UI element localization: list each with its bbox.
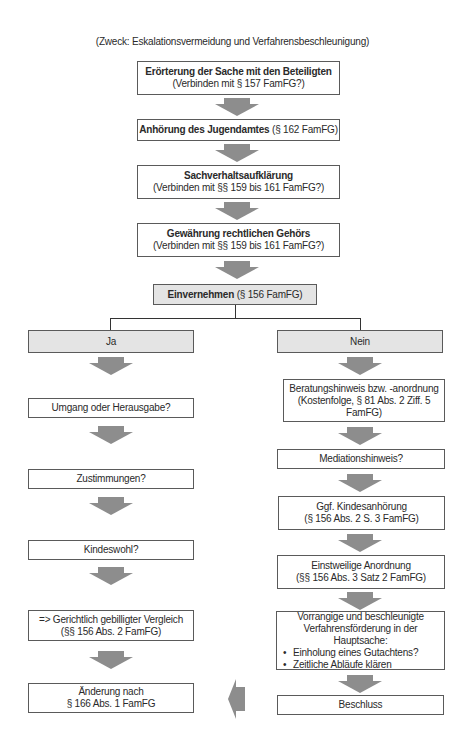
no-step-verfahrensfoerderung: Vorrangige und beschleunigte Verfahrensf… bbox=[276, 611, 445, 670]
down-arrow-icon bbox=[215, 261, 259, 279]
step-text: (§ 156 Abs. 2 S. 3 FamFG) bbox=[304, 513, 419, 525]
connector-line bbox=[360, 318, 361, 330]
no-step-einstweilige-anordnung: Einstweilige Anordnung (§§ 156 Abs. 3 Sa… bbox=[277, 555, 445, 589]
step-text: Umgang oder Herausgabe? bbox=[52, 402, 171, 414]
down-arrow-icon bbox=[215, 202, 259, 220]
step-text: (§§ 156 Abs. 3 Satz 2 FamFG) bbox=[296, 572, 426, 584]
down-arrow-icon bbox=[89, 497, 133, 515]
down-arrow-icon bbox=[89, 357, 133, 375]
bullet-list: Einholung eines Gutachtens? Zeitliche Ab… bbox=[283, 647, 418, 671]
down-arrow-icon bbox=[89, 567, 133, 585]
bullet-item: Zeitliche Abläufe klären bbox=[283, 659, 418, 671]
down-arrow-icon bbox=[89, 651, 133, 669]
connector-line bbox=[110, 318, 361, 319]
yes-step-zustimmungen: Zustimmungen? bbox=[28, 469, 194, 489]
no-step-kindesanhoerung: Ggf. Kindesanhörung (§ 156 Abs. 2 S. 3 F… bbox=[278, 496, 445, 530]
step-text: Mediationshinweis? bbox=[319, 453, 403, 465]
yes-step-aenderung: Änderung nach § 166 Abs. 1 FamFG bbox=[28, 683, 194, 713]
step-text: Zustimmungen? bbox=[76, 473, 145, 485]
step-note: (§ 162 FamFG) bbox=[272, 124, 338, 136]
step-text: Verfahrensförderung in der Hauptsache: bbox=[277, 623, 444, 647]
step-note: (Verbinden mit §§ 159 bis 161 FamFG?) bbox=[153, 182, 324, 194]
decision-einvernehmen: Einvernehmen (§ 156 FamFG) bbox=[153, 284, 317, 305]
step-eroerterung: Erörterung der Sache mit den Beteiligten… bbox=[137, 61, 340, 95]
left-arrow-icon bbox=[228, 679, 245, 719]
connector-line bbox=[235, 305, 236, 318]
step-text: Ggf. Kindesanhörung bbox=[316, 501, 407, 513]
step-text: Änderung nach bbox=[78, 686, 143, 698]
step-note: (Verbinden mit § 157 FamFG?) bbox=[172, 78, 304, 90]
yes-step-vergleich: => Gerichtlich gebilligter Vergleich (§§… bbox=[28, 610, 194, 641]
yes-step-kindeswohl: Kindeswohl? bbox=[28, 540, 194, 560]
step-title: Erörterung der Sache mit den Beteiligten bbox=[145, 66, 331, 78]
step-title: Gewährung rechtlichen Gehörs bbox=[167, 228, 310, 240]
down-arrow-icon bbox=[338, 427, 382, 445]
connector-line bbox=[110, 318, 111, 330]
no-step-beschluss: Beschluss bbox=[277, 695, 444, 715]
step-sachverhaltsaufklaerung: Sachverhaltsaufklärung (Verbinden mit §§… bbox=[137, 165, 340, 199]
step-text: FamFG) bbox=[346, 407, 382, 419]
step-note: (Verbinden mit §§ 159 bis 161 FamFG?) bbox=[153, 240, 324, 252]
decision-note: (§ 156 FamFG) bbox=[237, 289, 303, 301]
down-arrow-icon bbox=[338, 592, 382, 610]
step-text: Kindeswohl? bbox=[84, 544, 139, 556]
step-title: Anhörung des Jugendamtes bbox=[139, 124, 269, 136]
down-arrow-icon bbox=[215, 144, 259, 162]
diagram-subtitle: (Zweck: Eskalationsvermeidung und Verfah… bbox=[0, 36, 465, 47]
step-text: (Kostenfolge, § 81 Abs. 2 Ziff. 5 bbox=[298, 395, 431, 407]
down-arrow-icon bbox=[338, 357, 382, 375]
branch-label: Ja bbox=[106, 336, 116, 348]
down-arrow-icon bbox=[338, 474, 382, 492]
down-arrow-icon bbox=[215, 98, 259, 116]
branch-yes-header: Ja bbox=[28, 330, 194, 353]
step-text: => Gerichtlich gebilligter Vergleich bbox=[39, 614, 183, 626]
step-text: § 166 Abs. 1 FamFG bbox=[67, 698, 156, 710]
step-text: Beratungshinweis bzw. -anordnung bbox=[289, 383, 438, 395]
step-text: Vorrangige und beschleunigte bbox=[297, 611, 424, 623]
bullet-item: Einholung eines Gutachtens? bbox=[283, 647, 418, 659]
no-step-beratung: Beratungshinweis bzw. -anordnung (Kosten… bbox=[283, 379, 445, 422]
step-title: Sachverhaltsaufklärung bbox=[184, 170, 293, 182]
branch-label: Nein bbox=[350, 336, 370, 348]
decision-title: Einvernehmen bbox=[168, 289, 235, 301]
step-text: Einstweilige Anordnung bbox=[311, 560, 411, 572]
down-arrow-icon bbox=[89, 426, 133, 444]
step-anhoerung-jugendamt: Anhörung des Jugendamtes (§ 162 FamFG) bbox=[137, 119, 340, 141]
step-text: (§§ 156 Abs. 2 FamFG) bbox=[61, 626, 161, 638]
down-arrow-icon bbox=[338, 675, 382, 693]
down-arrow-icon bbox=[338, 534, 382, 552]
branch-no-header: Nein bbox=[277, 330, 443, 353]
no-step-mediation: Mediationshinweis? bbox=[277, 449, 445, 469]
step-rechtliches-gehoer: Gewährung rechtlichen Gehörs (Verbinden … bbox=[137, 223, 340, 257]
step-text: Beschluss bbox=[339, 699, 383, 711]
yes-step-umgang: Umgang oder Herausgabe? bbox=[28, 398, 194, 418]
